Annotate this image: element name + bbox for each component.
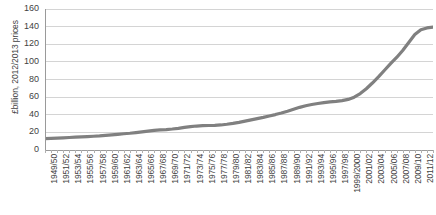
x-tick-label: 1975/76 (207, 154, 217, 212)
x-tick (342, 150, 343, 153)
x-tick (136, 150, 137, 153)
x-tick-label: 1959/60 (110, 154, 120, 212)
x-tick-label: 2001/02 (364, 154, 374, 212)
x-tick (275, 150, 276, 153)
y-tick-label: 0 (0, 145, 39, 154)
x-tick (221, 150, 222, 153)
x-tick (160, 150, 161, 153)
y-tick-label: 120 (0, 39, 39, 48)
x-tick (330, 150, 331, 153)
x-tick (245, 150, 246, 153)
data-series-line (45, 9, 433, 150)
x-tick (251, 150, 252, 153)
x-tick (312, 150, 313, 153)
x-tick (281, 150, 282, 153)
x-tick (294, 150, 295, 153)
y-tick-label: 60 (0, 92, 39, 101)
x-tick (148, 150, 149, 153)
x-tick (300, 150, 301, 153)
y-axis-line (45, 9, 46, 151)
y-tick-label: 160 (0, 4, 39, 13)
x-tick-label: 1955/56 (85, 154, 95, 212)
x-tick (166, 150, 167, 153)
x-tick-label: 2009/10 (413, 154, 423, 212)
x-tick-label: 1963/64 (134, 154, 144, 212)
x-tick (360, 150, 361, 153)
x-tick-label: 1979/80 (231, 154, 241, 212)
x-tick (257, 150, 258, 153)
x-tick (75, 150, 76, 153)
y-tick-label: 140 (0, 22, 39, 31)
x-tick (142, 150, 143, 153)
x-tick (391, 150, 392, 153)
x-tick (215, 150, 216, 153)
x-tick (100, 150, 101, 153)
x-tick (178, 150, 179, 153)
x-tick (366, 150, 367, 153)
y-tick-label: 20 (0, 127, 39, 136)
x-tick (403, 150, 404, 153)
x-tick-label: 1987/88 (279, 154, 289, 212)
x-tick-label: 1969/70 (170, 154, 180, 212)
x-tick (130, 150, 131, 153)
x-tick (385, 150, 386, 153)
x-tick (336, 150, 337, 153)
line-chart: £billion, 2012/2013 prices 0204060801001… (0, 0, 436, 215)
y-tick-label: 80 (0, 75, 39, 84)
x-tick (378, 150, 379, 153)
x-tick (306, 150, 307, 153)
x-tick (415, 150, 416, 153)
x-tick (154, 150, 155, 153)
x-tick-label: 1997/98 (340, 154, 350, 212)
x-tick (45, 150, 46, 153)
x-tick (87, 150, 88, 153)
x-tick (324, 150, 325, 153)
x-tick-label: 1995/96 (328, 154, 338, 212)
x-tick-label: 1961/62 (122, 154, 132, 212)
x-tick (239, 150, 240, 153)
x-tick-label: 1951/52 (61, 154, 71, 212)
x-tick-label: 1985/86 (267, 154, 277, 212)
x-tick (197, 150, 198, 153)
x-tick (348, 150, 349, 153)
x-tick (118, 150, 119, 153)
x-tick-label: 1967/68 (158, 154, 168, 212)
x-tick-label: 1973/74 (195, 154, 205, 212)
x-tick (433, 150, 434, 153)
x-tick (209, 150, 210, 153)
x-tick (63, 150, 64, 153)
x-tick-label: 1949/50 (49, 154, 59, 212)
x-tick (81, 150, 82, 153)
y-tick-label: 100 (0, 57, 39, 66)
x-tick (397, 150, 398, 153)
x-tick-label: 2007/08 (401, 154, 411, 212)
x-tick-label: 1983/84 (255, 154, 265, 212)
x-tick-label: 2011/12 (425, 154, 435, 212)
y-tick-label: 40 (0, 110, 39, 119)
x-tick-label: 1989/90 (292, 154, 302, 212)
x-tick (288, 150, 289, 153)
x-tick-label: 1991/92 (304, 154, 314, 212)
x-tick (172, 150, 173, 153)
x-tick (427, 150, 428, 153)
x-tick (354, 150, 355, 153)
x-tick-label: 1981/82 (243, 154, 253, 212)
x-tick-label: 1993/94 (316, 154, 326, 212)
x-tick (233, 150, 234, 153)
x-axis-tick-labels: 1949/501951/521953/541955/561957/581959/… (45, 154, 433, 214)
x-tick-label: 2005/06 (389, 154, 399, 212)
x-tick-label: 1971/72 (182, 154, 192, 212)
x-tick-label: 1953/54 (73, 154, 83, 212)
x-tick (184, 150, 185, 153)
x-tick (372, 150, 373, 153)
plot-area (45, 9, 433, 150)
x-tick (409, 150, 410, 153)
x-tick (57, 150, 58, 153)
x-tick (69, 150, 70, 153)
x-tick (124, 150, 125, 153)
x-tick-label: 1999/2000 (352, 154, 362, 212)
x-tick (94, 150, 95, 153)
x-tick (421, 150, 422, 153)
x-tick (191, 150, 192, 153)
x-tick-label: 1957/58 (98, 154, 108, 212)
